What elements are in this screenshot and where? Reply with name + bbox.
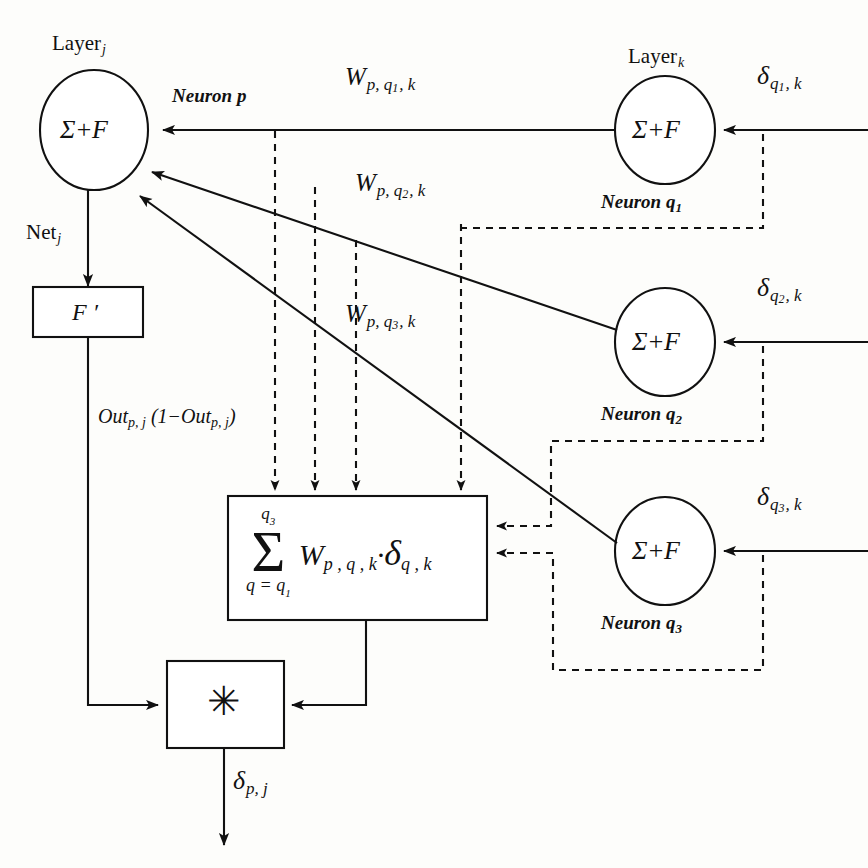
delta-q1-label: δq1, k	[757, 63, 802, 93]
diagram-canvas: Layerj Layerk Σ+F Neuron p Σ+F Neuron q1…	[0, 0, 868, 868]
weight-q3-label: Wp, q3, k	[345, 301, 415, 331]
fprime-label: F ′	[72, 300, 98, 324]
sum-to-multiplier-line	[292, 620, 366, 705]
neuron-q1-caption: Neuron q1	[601, 192, 682, 214]
neuron-p-body: Σ+F	[60, 117, 107, 143]
out-derivative-label: Outp, j (1−Outp, j)	[98, 406, 236, 430]
layer-k-label: Layerk	[628, 46, 684, 70]
delta-pj-label: δp, j	[233, 768, 268, 797]
neuron-q3-caption: Neuron q3	[601, 613, 682, 635]
neuron-p-caption: Neuron p	[172, 86, 246, 105]
summation-lower-limit: q = q1	[246, 576, 291, 599]
dashed-feedback-q1	[461, 134, 763, 228]
diagram-lines	[0, 0, 868, 868]
delta-q3-label: δq3, k	[757, 484, 802, 514]
net-j-label: Netj	[26, 222, 61, 246]
summation-operator: q3 Σ q = q1	[246, 505, 291, 599]
neuron-q2-body: Σ+F	[632, 329, 679, 355]
weight-q1-label: Wp, q1, k	[345, 64, 415, 94]
summation-expression: q3 Σ q = q1 Wp , q , k·δq , k	[246, 505, 431, 599]
summation-body: Wp , q , k·δq , k	[299, 532, 432, 575]
multiplier-symbol: ✳	[207, 682, 241, 722]
weight-q2-label: Wp, q2, k	[355, 170, 425, 200]
neuron-q1-body: Σ+F	[632, 117, 679, 143]
delta-q2-label: δq2, k	[757, 275, 802, 305]
neuron-q3-body: Σ+F	[632, 538, 679, 564]
layer-j-label: Layerj	[52, 33, 106, 57]
sigma-glyph: Σ	[251, 528, 285, 576]
out-derivative-line	[88, 337, 158, 705]
neuron-q2-caption: Neuron q2	[601, 404, 682, 426]
